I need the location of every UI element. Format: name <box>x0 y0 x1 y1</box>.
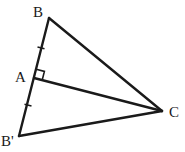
triangle-diagram: B A B' C <box>0 0 185 152</box>
label-b-prime: B' <box>1 133 14 149</box>
tick-mark-ba <box>38 47 45 49</box>
label-b: B <box>33 4 43 20</box>
label-a: A <box>15 69 26 85</box>
segment-bprime-c <box>19 111 162 136</box>
label-c: C <box>169 104 179 120</box>
